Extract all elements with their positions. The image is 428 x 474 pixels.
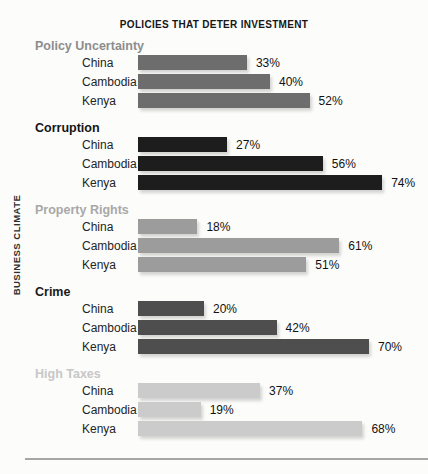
- country-label: Cambodia: [82, 321, 138, 335]
- bar: [138, 421, 362, 436]
- bar-chart: Policy UncertaintyChina33%Cambodia40%Ken…: [0, 39, 428, 449]
- bar: [138, 74, 270, 89]
- bar: [138, 55, 247, 70]
- country-label: China: [82, 220, 138, 234]
- bar-row: Kenya70%: [0, 339, 428, 354]
- country-label: Cambodia: [82, 157, 138, 171]
- category-group: CorruptionChina27%Cambodia56%Kenya74%: [0, 121, 428, 190]
- bar: [138, 301, 204, 316]
- bar-row: Cambodia19%: [0, 402, 428, 417]
- chart-title: POLICIES THAT DETER INVESTMENT: [0, 19, 428, 30]
- bottom-rule: [25, 458, 428, 460]
- bar-row: Kenya52%: [0, 93, 428, 108]
- category-label: Policy Uncertainty: [35, 39, 428, 53]
- value-label: 70%: [378, 340, 402, 354]
- bar-row: Kenya74%: [0, 175, 428, 190]
- bar: [138, 339, 369, 354]
- country-label: Kenya: [82, 258, 138, 272]
- bar: [138, 93, 310, 108]
- value-label: 37%: [269, 384, 293, 398]
- value-label: 42%: [286, 321, 310, 335]
- category-label: Crime: [35, 285, 428, 299]
- bar: [138, 175, 382, 190]
- category-group: Property RightsChina18%Cambodia61%Kenya5…: [0, 203, 428, 272]
- category-group: Policy UncertaintyChina33%Cambodia40%Ken…: [0, 39, 428, 108]
- country-label: Cambodia: [82, 75, 138, 89]
- value-label: 68%: [371, 422, 395, 436]
- value-label: 52%: [319, 94, 343, 108]
- value-label: 18%: [206, 220, 230, 234]
- bar: [138, 257, 306, 272]
- country-label: China: [82, 384, 138, 398]
- chart-canvas: POLICIES THAT DETER INVESTMENT BUSINESS …: [0, 0, 428, 474]
- bar-row: Cambodia56%: [0, 156, 428, 171]
- bar: [138, 219, 197, 234]
- category-label: High Taxes: [35, 367, 428, 381]
- category-group: CrimeChina20%Cambodia42%Kenya70%: [0, 285, 428, 354]
- bar-row: Kenya51%: [0, 257, 428, 272]
- category-label: Corruption: [35, 121, 428, 135]
- bar: [138, 320, 277, 335]
- country-label: China: [82, 302, 138, 316]
- value-label: 19%: [210, 403, 234, 417]
- country-label: Cambodia: [82, 239, 138, 253]
- bar: [138, 156, 323, 171]
- country-label: Kenya: [82, 340, 138, 354]
- bar: [138, 402, 201, 417]
- category-label: Property Rights: [35, 203, 428, 217]
- value-label: 61%: [348, 239, 372, 253]
- value-label: 33%: [256, 56, 280, 70]
- value-label: 40%: [279, 75, 303, 89]
- bar-row: China18%: [0, 219, 428, 234]
- category-group: High TaxesChina37%Cambodia19%Kenya68%: [0, 367, 428, 436]
- country-label: Cambodia: [82, 403, 138, 417]
- country-label: China: [82, 138, 138, 152]
- value-label: 27%: [236, 138, 260, 152]
- bar: [138, 238, 339, 253]
- value-label: 56%: [332, 157, 356, 171]
- value-label: 74%: [391, 176, 415, 190]
- bar-row: Cambodia61%: [0, 238, 428, 253]
- value-label: 51%: [315, 258, 339, 272]
- value-label: 20%: [213, 302, 237, 316]
- bar: [138, 137, 227, 152]
- country-label: Kenya: [82, 94, 138, 108]
- bar-row: China37%: [0, 383, 428, 398]
- bar-row: China33%: [0, 55, 428, 70]
- bar-row: China27%: [0, 137, 428, 152]
- country-label: Kenya: [82, 422, 138, 436]
- country-label: China: [82, 56, 138, 70]
- bar-row: China20%: [0, 301, 428, 316]
- country-label: Kenya: [82, 176, 138, 190]
- bar-row: Kenya68%: [0, 421, 428, 436]
- bar-row: Cambodia40%: [0, 74, 428, 89]
- bar-row: Cambodia42%: [0, 320, 428, 335]
- bar: [138, 383, 260, 398]
